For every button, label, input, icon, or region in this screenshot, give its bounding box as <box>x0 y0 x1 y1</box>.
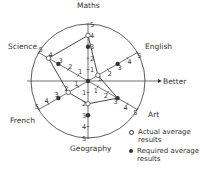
tick-label: 4 <box>90 32 94 40</box>
actual-point <box>66 90 70 94</box>
tick-label: 1 <box>82 89 86 97</box>
actual-point <box>46 56 50 60</box>
required-point <box>56 96 60 100</box>
open-circle-icon <box>129 130 134 135</box>
required-point <box>56 62 60 66</box>
required-point <box>115 62 119 66</box>
actual-point <box>86 33 90 37</box>
tick-label: 5 <box>39 46 43 54</box>
axis-label-science: Science <box>8 42 37 51</box>
tick-label: 2 <box>68 63 72 71</box>
tick-label: 5 <box>90 21 94 29</box>
filled-circle-icon <box>129 149 133 153</box>
tick-label: 1 <box>74 80 78 88</box>
tick-label: 3 <box>82 112 86 120</box>
required-point <box>86 45 90 49</box>
axis-label-geography: Geography <box>70 144 112 153</box>
axis-label-art: Art <box>148 110 159 119</box>
tick-label: 4 <box>123 104 127 112</box>
required-point <box>115 96 119 100</box>
legend-item-actual: Actual average results <box>129 128 200 144</box>
tick-label: 4 <box>82 123 86 131</box>
tick-label: 1 <box>78 68 82 76</box>
legend-label-actual: Actual average results <box>138 128 191 144</box>
legend: Actual average results Required average … <box>129 128 200 166</box>
tick-label: 5 <box>137 52 141 60</box>
tick-label: 4 <box>127 58 131 66</box>
center-dot <box>86 79 90 83</box>
axis-label-english: English <box>145 42 172 51</box>
legend-required-line1: Required average <box>137 147 199 155</box>
axis-science <box>39 53 88 82</box>
legend-item-required: Required average results <box>129 147 200 163</box>
axis-label-french: French <box>10 116 35 125</box>
tick-label: 2 <box>104 92 108 100</box>
tick-label: 5 <box>82 135 86 143</box>
required-point <box>86 113 90 117</box>
tick-label: 1 <box>94 87 98 95</box>
actual-point <box>96 73 100 77</box>
legend-actual-line1: Actual average <box>138 128 191 136</box>
axis-label-maths: Maths <box>77 1 100 10</box>
tick-label: 4 <box>45 97 49 105</box>
legend-actual-line2: results <box>138 136 161 144</box>
better-arrowhead-icon <box>158 79 162 83</box>
legend-required-line2: results <box>137 155 160 163</box>
tick-label: 5 <box>133 109 137 117</box>
tick-label: 1 <box>90 66 94 74</box>
better-label: Better <box>163 77 187 86</box>
tick-label: 5 <box>35 103 39 111</box>
tick-label: 2 <box>108 70 112 78</box>
actual-point <box>86 102 90 106</box>
legend-label-required: Required average results <box>137 147 199 163</box>
